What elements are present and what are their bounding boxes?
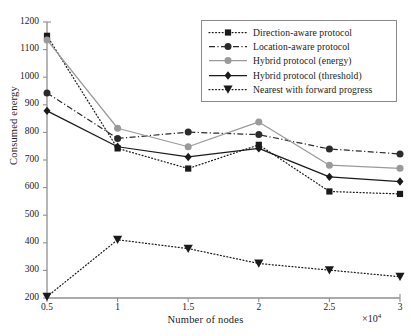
x-axis-title: Number of nodes (0, 314, 411, 325)
data-point-marker (397, 150, 404, 157)
chart-series (42, 236, 404, 301)
x-axis-tick-label: 3 (385, 302, 411, 312)
data-point-marker (42, 293, 51, 301)
y-axis-tick-label: 200 (9, 292, 39, 302)
x-axis-tick-label: 0.5 (32, 302, 62, 312)
x-axis-multiplier: ×104 (362, 312, 381, 324)
data-point-marker (185, 153, 192, 161)
chart-series (44, 107, 404, 186)
data-point-marker (397, 177, 404, 185)
data-point-marker (397, 191, 403, 197)
y-axis-tick-label: 1100 (9, 43, 39, 53)
legend-item[interactable]: Direction-aware protocol (207, 25, 391, 39)
legend-label: Nearest with forward progress (249, 84, 372, 95)
legend-item[interactable]: Location-aware protocol (207, 39, 391, 53)
data-point-marker (185, 129, 192, 136)
data-point-marker (255, 118, 262, 125)
y-axis-tick-label: 400 (9, 236, 39, 246)
legend-label: Hybrid protocol (energy) (249, 55, 352, 66)
y-axis-tick-label: 1000 (9, 71, 39, 81)
legend-symbol (207, 69, 249, 82)
y-axis-tick-label: 700 (9, 154, 39, 164)
legend-symbol (207, 54, 249, 67)
y-axis-tick-label: 500 (9, 209, 39, 219)
data-point-marker (44, 107, 51, 115)
legend-item[interactable]: Hybrid protocol (energy) (207, 54, 391, 68)
legend-item[interactable]: Hybrid protocol (threshold) (207, 68, 391, 82)
data-point-marker (44, 89, 51, 96)
data-point-marker (185, 143, 192, 150)
x-axis-tick-label: 2 (244, 302, 274, 312)
y-axis-tick-label: 1200 (9, 16, 39, 26)
y-axis-tick-label: 800 (9, 126, 39, 136)
legend-symbol (207, 83, 249, 96)
y-axis-tick-label: 900 (9, 98, 39, 108)
chart-legend: Direction-aware protocolLocation-aware p… (201, 20, 397, 102)
legend-symbol (207, 40, 249, 53)
x-axis-tick-label: 1 (103, 302, 133, 312)
x-axis-tick-label: 2.5 (314, 302, 344, 312)
data-point-marker (397, 165, 404, 172)
y-axis-tick-label: 600 (9, 181, 39, 191)
x-axis-multiplier-base: ×10 (362, 313, 378, 324)
data-point-marker (326, 145, 333, 152)
data-point-marker (326, 162, 333, 169)
legend-label: Location-aware protocol (249, 41, 350, 52)
legend-label: Hybrid protocol (threshold) (249, 70, 362, 81)
y-axis-tick-label: 300 (9, 264, 39, 274)
chart-figure: Consumed energy Number of nodes ×104 Dir… (0, 0, 411, 336)
data-point-marker (326, 188, 332, 194)
data-point-marker (185, 165, 191, 171)
legend-symbol (207, 26, 249, 39)
x-axis-multiplier-exponent: 4 (378, 312, 382, 320)
data-point-marker (114, 135, 121, 142)
legend-item[interactable]: Nearest with forward progress (207, 83, 391, 97)
data-point-marker (44, 36, 51, 43)
legend-label: Direction-aware protocol (249, 27, 352, 38)
data-point-marker (326, 173, 333, 181)
data-point-marker (114, 125, 121, 132)
data-point-marker (255, 131, 262, 138)
x-axis-tick-label: 1.5 (173, 302, 203, 312)
